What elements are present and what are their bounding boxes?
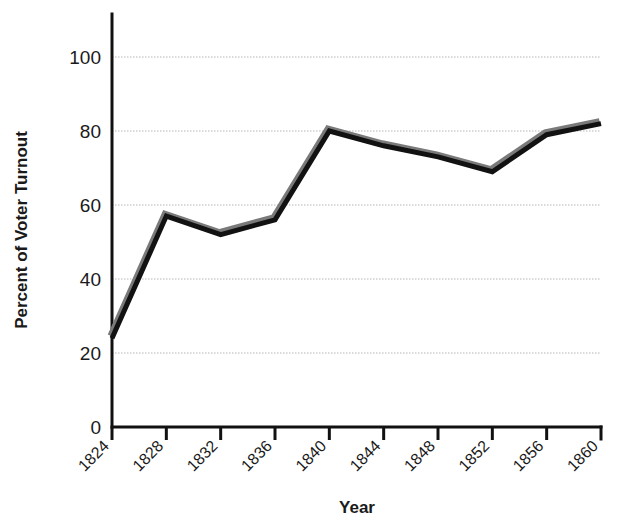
voter-turnout-line-chart: 020406080100 182418281832183618401844184… bbox=[0, 0, 630, 526]
y-tick-label: 0 bbox=[90, 417, 101, 438]
y-tick-label: 80 bbox=[80, 121, 101, 142]
y-tick-label: 40 bbox=[80, 269, 101, 290]
y-tick-label: 100 bbox=[69, 47, 101, 68]
y-tick-label: 60 bbox=[80, 195, 101, 216]
chart-canvas: 020406080100 182418281832183618401844184… bbox=[0, 0, 630, 526]
y-tick-label: 20 bbox=[80, 343, 101, 364]
x-axis-title: Year bbox=[339, 498, 375, 517]
y-axis-title: Percent of Voter Turnout bbox=[12, 131, 31, 329]
